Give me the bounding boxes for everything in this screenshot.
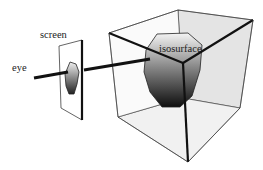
eye-label: eye: [12, 62, 27, 73]
isosurface-label: isosurface: [159, 43, 202, 54]
screen-label: screen: [40, 29, 68, 40]
isosurface-raycast-diagram: isosurface screen eye: [0, 0, 263, 170]
